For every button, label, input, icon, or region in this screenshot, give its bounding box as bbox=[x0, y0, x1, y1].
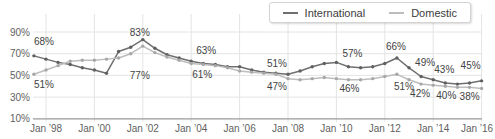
data-labels: 68%83%63%51%57%66%49%43%45%51%77%61%47%4… bbox=[34, 27, 481, 102]
point-marker bbox=[81, 59, 84, 62]
x-tick-label: Jan ’98 bbox=[30, 123, 63, 134]
data-label: 45% bbox=[461, 60, 481, 71]
point-marker bbox=[56, 61, 59, 64]
point-marker bbox=[44, 57, 47, 60]
legend-label-international: International bbox=[305, 7, 366, 19]
x-tick-label: Jan ’02 bbox=[127, 123, 160, 134]
y-axis-labels: 90%70%50%30%10% bbox=[10, 27, 30, 125]
point-marker bbox=[93, 59, 96, 62]
point-marker bbox=[226, 66, 229, 69]
point-marker bbox=[383, 62, 386, 65]
point-marker bbox=[335, 77, 338, 80]
y-tick-label: 70% bbox=[10, 48, 30, 59]
point-marker bbox=[383, 75, 386, 78]
point-marker bbox=[177, 59, 180, 62]
point-marker bbox=[311, 77, 314, 80]
x-tick-label: Jan ’04 bbox=[175, 123, 208, 134]
point-marker bbox=[456, 86, 459, 89]
point-marker bbox=[298, 69, 301, 72]
legend-swatch-international-icon bbox=[283, 12, 298, 14]
point-marker bbox=[407, 66, 410, 69]
data-label: 63% bbox=[196, 45, 216, 56]
point-marker bbox=[129, 52, 132, 55]
point-marker bbox=[371, 77, 374, 80]
point-marker bbox=[129, 45, 132, 48]
point-marker bbox=[214, 64, 217, 67]
point-marker bbox=[32, 54, 35, 57]
point-marker bbox=[153, 51, 156, 54]
point-marker bbox=[480, 79, 483, 82]
data-label: 57% bbox=[342, 48, 362, 59]
x-tick-label: Jan ’10 bbox=[320, 123, 353, 134]
point-marker bbox=[190, 62, 193, 65]
legend-label-domestic: Domestic bbox=[411, 7, 457, 19]
point-marker bbox=[262, 72, 265, 75]
data-label: 42% bbox=[410, 88, 430, 99]
x-axis-labels: Jan ’98Jan ’00Jan ’02Jan ’04Jan ’06Jan ’… bbox=[30, 123, 494, 134]
x-tick-label: Jan ’08 bbox=[272, 123, 305, 134]
x-tick-label: Jan ’00 bbox=[78, 123, 111, 134]
point-marker bbox=[238, 69, 241, 72]
legend: International Domestic bbox=[269, 2, 471, 23]
x-tick-label: Jan ’12 bbox=[369, 123, 402, 134]
point-marker bbox=[323, 76, 326, 79]
y-tick-label: 10% bbox=[10, 113, 30, 124]
point-marker bbox=[238, 65, 241, 68]
point-marker bbox=[335, 61, 338, 64]
point-marker bbox=[419, 75, 422, 78]
point-marker bbox=[444, 81, 447, 84]
data-label: 46% bbox=[339, 83, 359, 94]
point-marker bbox=[69, 63, 72, 66]
point-marker bbox=[311, 65, 314, 68]
x-tick-label: Jan ’06 bbox=[223, 123, 256, 134]
point-marker bbox=[105, 72, 108, 75]
y-tick-label: 30% bbox=[10, 92, 30, 103]
y-tick-label: 90% bbox=[10, 27, 30, 38]
data-label: 83% bbox=[130, 27, 150, 38]
data-label: 49% bbox=[415, 57, 435, 68]
point-marker bbox=[153, 47, 156, 50]
data-label: 61% bbox=[192, 69, 212, 80]
point-marker bbox=[432, 78, 435, 81]
point-marker bbox=[141, 44, 144, 47]
x-tick-label: Jan ’14 bbox=[417, 123, 450, 134]
point-marker bbox=[56, 64, 59, 67]
data-label: 51% bbox=[34, 79, 54, 90]
point-marker bbox=[468, 86, 471, 89]
line-chart-container: 90%70%50%30%10%Jan ’98Jan ’00Jan ’02Jan … bbox=[0, 0, 495, 139]
point-marker bbox=[298, 78, 301, 81]
point-marker bbox=[359, 66, 362, 69]
point-marker bbox=[44, 68, 47, 71]
point-marker bbox=[347, 65, 350, 68]
legend-item-international[interactable]: International bbox=[283, 7, 366, 19]
data-label: 51% bbox=[267, 58, 287, 69]
point-marker bbox=[419, 82, 422, 85]
data-label: 40% bbox=[436, 90, 456, 101]
point-marker bbox=[395, 56, 398, 59]
legend-swatch-domestic-icon bbox=[389, 12, 404, 14]
y-tick-label: 50% bbox=[10, 70, 30, 81]
point-marker bbox=[117, 50, 120, 53]
point-marker bbox=[286, 73, 289, 76]
point-marker bbox=[93, 68, 96, 71]
point-marker bbox=[274, 73, 277, 76]
point-marker bbox=[432, 83, 435, 86]
point-marker bbox=[117, 56, 120, 59]
point-marker bbox=[468, 81, 471, 84]
point-marker bbox=[480, 87, 483, 90]
point-marker bbox=[202, 63, 205, 66]
point-marker bbox=[250, 70, 253, 73]
point-marker bbox=[32, 73, 35, 76]
legend-item-domestic[interactable]: Domestic bbox=[389, 7, 457, 19]
vertical-gridlines bbox=[46, 14, 482, 122]
point-marker bbox=[81, 66, 84, 69]
point-marker bbox=[105, 57, 108, 60]
point-marker bbox=[323, 62, 326, 65]
data-label: 77% bbox=[130, 70, 150, 81]
point-marker bbox=[165, 55, 168, 58]
data-label: 43% bbox=[434, 64, 454, 75]
data-label: 66% bbox=[386, 41, 406, 52]
point-marker bbox=[371, 65, 374, 68]
data-label: 68% bbox=[34, 36, 54, 47]
data-label: 47% bbox=[267, 81, 287, 92]
